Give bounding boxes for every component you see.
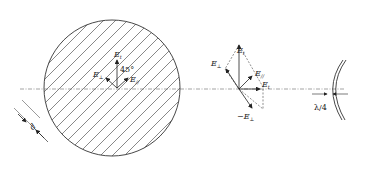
e-par-arrow [239, 76, 252, 89]
shift-label: λ/4 [314, 103, 327, 112]
vector-decomposition: Et E⊥ E// Et −E⊥ [210, 45, 271, 122]
e-top-label: Et [236, 46, 246, 56]
wavefront-group: λ/4 [312, 60, 348, 120]
grating-disc [0, 0, 340, 172]
e-right-arrow [117, 78, 128, 88]
e-perp-label: E⊥ [210, 59, 222, 69]
angle-label: 45° [120, 65, 134, 74]
e-out-label: Et [261, 80, 271, 90]
grating-period-indicator: d [14, 100, 48, 142]
disc-outline [44, 20, 180, 156]
disc-field-vectors: Et E⊥ E// 45° [92, 50, 141, 88]
e-right-label: E// [129, 75, 141, 85]
diagram-canvas: d Et E⊥ E// 45° Et E⊥ E// Et −E⊥ λ/4 [0, 0, 375, 172]
e-left-arrow [106, 78, 117, 88]
wavefront-curve-1 [333, 60, 343, 120]
e-vertical-label: Et [113, 50, 123, 60]
e-left-label: E⊥ [92, 70, 104, 80]
e-par-label: E// [254, 69, 266, 79]
e-neg-perp-label: −E⊥ [237, 112, 255, 122]
e-perp-arrow [226, 69, 239, 89]
grating-hatch-lines [0, 0, 340, 172]
